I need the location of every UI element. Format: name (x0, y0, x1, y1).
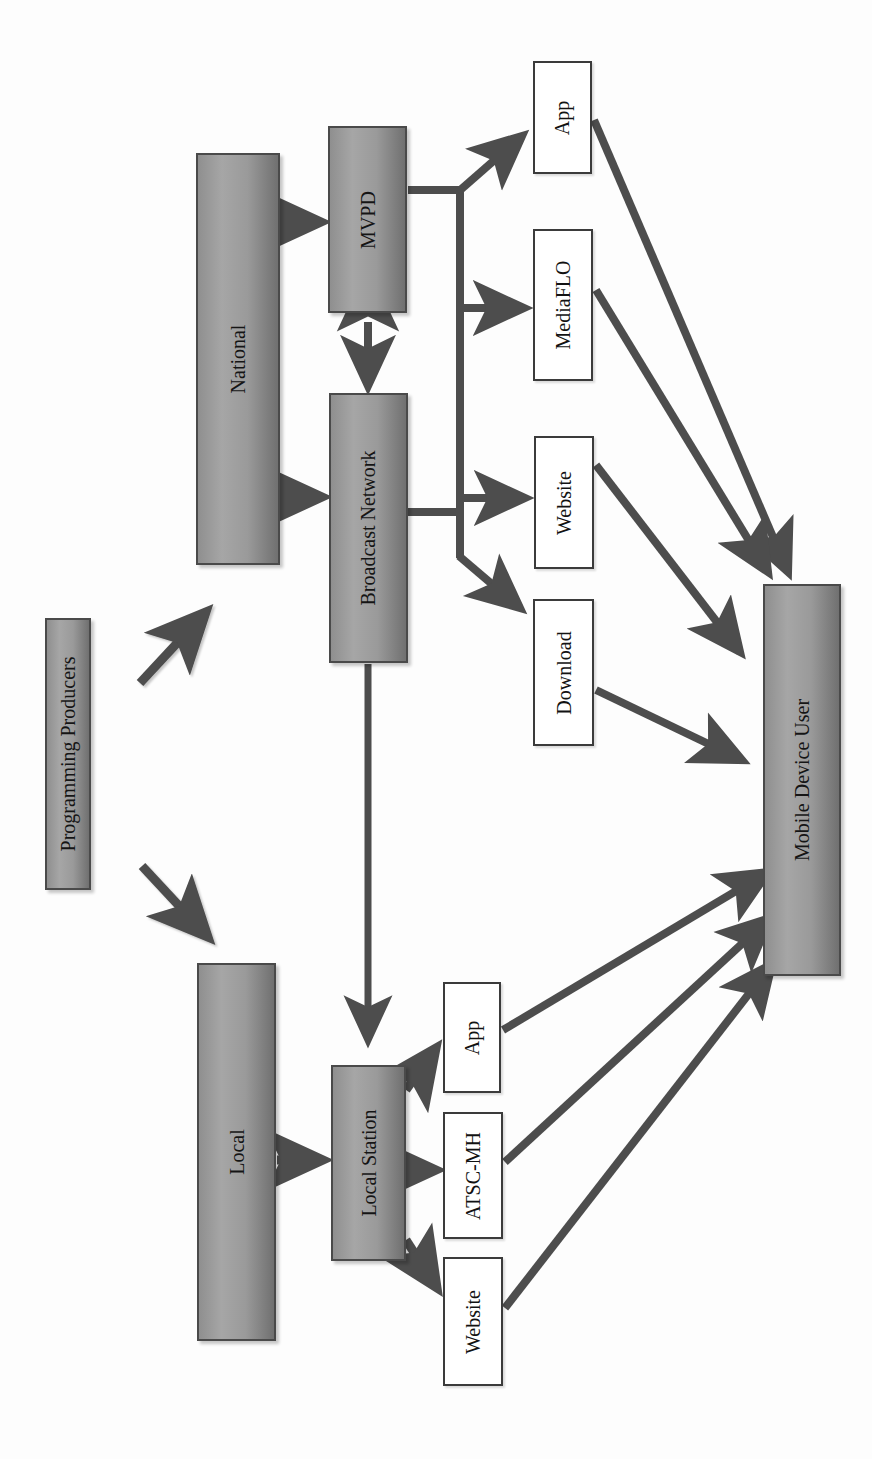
node-label-download: Download (554, 631, 574, 714)
node-website-bottom[interactable]: Website (443, 1257, 503, 1386)
node-label-local: Local (227, 1129, 247, 1175)
connector-app-bottom-to-user (503, 872, 768, 1030)
node-label-website-top: Website (554, 471, 574, 535)
node-label-app-top: App (552, 100, 572, 134)
node-national[interactable]: National (196, 153, 280, 565)
connector-producers-to-national (140, 612, 206, 683)
connector-mvpd-branch-spine (408, 190, 460, 314)
node-mediaflo[interactable]: MediaFLO (533, 229, 593, 381)
node-label-website-bottom: Website (463, 1290, 483, 1354)
connector-station-to-website (406, 1240, 437, 1288)
connector-atsc-to-user (505, 918, 770, 1162)
node-local-station[interactable]: Local Station (331, 1065, 406, 1261)
node-local[interactable]: Local (197, 963, 276, 1341)
node-label-broadcast-network: Broadcast Network (359, 451, 379, 606)
node-app-top[interactable]: App (533, 61, 592, 174)
connector-website-bottom-to-user (505, 964, 772, 1308)
diagram-connector-layer (0, 0, 872, 1459)
node-label-national: National (228, 325, 248, 394)
node-label-atsc-mh: ATSC-MH (463, 1132, 483, 1220)
node-website-top[interactable]: Website (534, 436, 594, 569)
node-download[interactable]: Download (533, 599, 594, 746)
node-app-bottom[interactable]: App (443, 982, 501, 1093)
connector-broadcast-branch-spine (408, 498, 460, 512)
connector-producers-to-local (142, 866, 208, 937)
node-mvpd[interactable]: MVPD (328, 126, 407, 313)
node-label-mediaflo: MediaFLO (553, 261, 573, 350)
node-broadcast-network[interactable]: Broadcast Network (329, 393, 408, 663)
node-label-mvpd: MVPD (357, 191, 377, 249)
connector-station-to-app (406, 1048, 436, 1090)
node-label-programming-producers: Programming Producers (58, 657, 78, 852)
node-mobile-device-user[interactable]: Mobile Device User (763, 584, 841, 976)
node-label-local-station: Local Station (359, 1109, 379, 1216)
node-label-mobile-device-user: Mobile Device User (792, 699, 812, 861)
node-programming-producers[interactable]: Programming Producers (45, 618, 91, 890)
connector-broadcast-to-download (459, 556, 520, 608)
node-atsc-mh[interactable]: ATSC-MH (443, 1112, 503, 1239)
connector-mvpd-to-app (458, 136, 522, 192)
node-label-app-bottom: App (462, 1020, 482, 1054)
figure-container: Programming Producers National Local MVP… (0, 0, 872, 1459)
connector-download-to-user (596, 690, 742, 760)
